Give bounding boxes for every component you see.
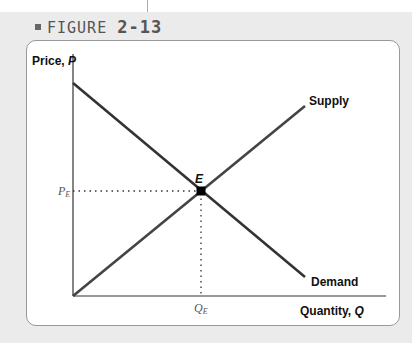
y-axis-label: Price, P [32,54,77,68]
x-axis-label: Quantity, Q [300,304,364,318]
qe-label: QE [194,301,208,316]
demand-line [73,83,305,277]
pe-label: PE [57,184,70,199]
equilibrium-point [197,187,206,196]
supply-line [73,106,305,296]
supply-demand-chart: Price, P Quantity, Q Supply Demand E PE … [0,0,412,343]
equilibrium-label: E [195,172,204,186]
supply-label: Supply [309,94,349,108]
demand-label: Demand [311,275,358,289]
